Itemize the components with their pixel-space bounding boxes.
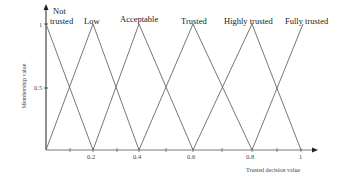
membership-lines [46, 24, 303, 150]
x-axis-title: Trusted decision value [246, 167, 300, 173]
x-axis-arrow-icon [312, 148, 318, 153]
series-trusted [139, 24, 252, 150]
series-low [46, 24, 139, 150]
label-acceptable: Acceptable [120, 14, 158, 24]
fuzzy-membership-chart: 0.5 1 0.2 0.4 0.6 0.8 1 Not trusted Low … [0, 0, 349, 180]
label-not-trusted-line1: Not [53, 6, 66, 16]
x-tick-label-0.8: 0.8 [246, 153, 254, 160]
x-tick-label-0.2: 0.2 [87, 153, 95, 160]
x-tick-label-0.4: 0.4 [133, 153, 142, 160]
label-highly-trusted: Highly trusted [224, 16, 274, 26]
series-acceptable [93, 24, 193, 150]
x-tick-label-0.6: 0.6 [187, 153, 196, 160]
label-not-trusted-line2: trusted [50, 16, 74, 26]
y-axis-arrow-icon [44, 4, 49, 10]
label-fully-trusted: Fully trusted [285, 16, 329, 26]
series-highly-trusted [193, 24, 301, 150]
y-tick-label-0.5: 0.5 [34, 84, 42, 91]
label-low: Low [84, 16, 100, 26]
x-tick-label-1: 1 [299, 153, 302, 160]
label-trusted: Trusted [181, 16, 207, 26]
y-tick-label-1: 1 [39, 21, 42, 28]
y-axis-title: Membership value [21, 63, 27, 108]
